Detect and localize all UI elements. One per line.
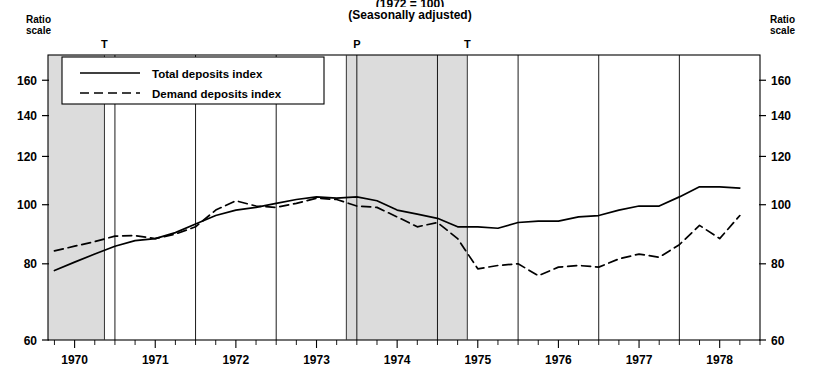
y-tick-label-right: 120 — [771, 150, 791, 164]
x-tick-label: 1970 — [61, 353, 88, 367]
x-tick-label: 1972 — [223, 353, 250, 367]
y-tick-label-right: 140 — [771, 109, 791, 123]
chart-plot-area: 6060808010010012012014014016016019701971… — [0, 0, 820, 373]
x-tick-label: 1974 — [384, 353, 411, 367]
legend-label-1: Demand deposits index — [152, 88, 282, 100]
x-tick-label: 1971 — [142, 353, 169, 367]
x-tick-label: 1978 — [706, 353, 733, 367]
legend-label-0: Total deposits index — [152, 68, 263, 80]
y-tick-label-left: 100 — [17, 198, 37, 212]
y-tick-label-right: 160 — [771, 74, 791, 88]
x-tick-label: 1975 — [464, 353, 491, 367]
x-tick-label: 1977 — [626, 353, 653, 367]
y-tick-label-right: 100 — [771, 198, 791, 212]
cycle-marker-P: P — [353, 38, 360, 50]
y-tick-label-right: 80 — [771, 257, 785, 271]
x-tick-label: 1976 — [545, 353, 572, 367]
y-tick-label-left: 120 — [17, 150, 37, 164]
x-tick-label: 1973 — [303, 353, 330, 367]
y-tick-label-right: 60 — [771, 334, 785, 348]
line-chart: 6060808010010012012014014016016019701971… — [0, 0, 820, 373]
y-tick-label-left: 80 — [24, 257, 38, 271]
cycle-marker-T: T — [464, 38, 471, 50]
y-tick-label-left: 160 — [17, 74, 37, 88]
y-tick-label-left: 140 — [17, 109, 37, 123]
y-tick-label-left: 60 — [24, 334, 38, 348]
cycle-marker-T: T — [101, 38, 108, 50]
